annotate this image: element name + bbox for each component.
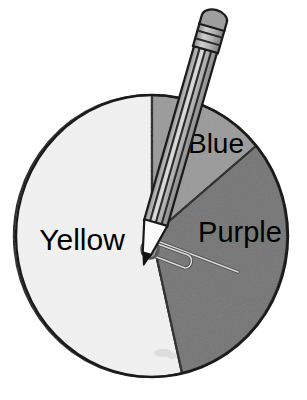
slice-label-yellow: Yellow [39, 223, 125, 256]
slice-label-blue: Blue [188, 128, 244, 159]
slice-label-purple: Purple [198, 216, 282, 248]
spinner-figure-container: Yellow Blue Purple [0, 0, 307, 400]
spinner-pie-chart: Yellow Blue Purple [0, 0, 307, 400]
